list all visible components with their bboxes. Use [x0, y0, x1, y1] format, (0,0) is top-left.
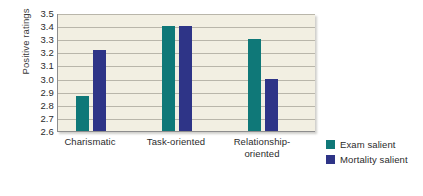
y-axis-tick-label: 2.7: [40, 114, 54, 124]
legend-swatch-icon: [326, 155, 335, 164]
chart-legend: Exam salientMortality salient: [326, 138, 408, 168]
bar-group: [58, 14, 144, 131]
legend-swatch-icon: [326, 140, 335, 149]
bar-chart: Positive ratings 3.53.43.33.23.13.02.92.…: [0, 0, 423, 196]
bar: [93, 50, 106, 131]
x-axis-category-label-line: Task-oriented: [147, 136, 205, 147]
x-axis-category-label: Charismatic: [64, 136, 115, 148]
legend-item: Exam salient: [326, 138, 408, 151]
bar-group: [144, 14, 230, 131]
y-axis-tick-label: 3.4: [40, 22, 54, 32]
x-axis-category-label-line: oriented: [234, 148, 291, 160]
bar: [76, 96, 89, 131]
legend-item: Mortality salient: [326, 153, 408, 166]
x-axis-category-label-line: Relationship-: [234, 136, 291, 147]
bar-group: [230, 14, 315, 131]
y-axis-tick-label: 3.3: [40, 35, 54, 45]
y-axis-tick-label: 2.8: [40, 101, 54, 111]
y-axis-tick-label: 3.2: [40, 49, 54, 59]
bar: [248, 39, 261, 131]
x-axis-category-label: Relationship-oriented: [234, 136, 291, 159]
bar-series-container: [58, 14, 315, 131]
x-axis-category-labels: CharismaticTask-orientedRelationship-ori…: [57, 136, 315, 176]
x-axis-category-label: Task-oriented: [147, 136, 205, 148]
y-axis-tick-labels: 3.53.43.33.23.13.02.92.82.72.6: [22, 14, 54, 132]
y-axis-tick-label: 3.1: [40, 62, 54, 72]
bar: [179, 26, 192, 131]
legend-label: Exam salient: [340, 140, 396, 150]
x-axis-category-label-line: Charismatic: [64, 136, 115, 147]
y-axis-tick-label: 3.0: [40, 75, 54, 85]
legend-label: Mortality salient: [340, 155, 408, 165]
plot-area: [57, 14, 315, 132]
bar: [265, 79, 278, 131]
bar: [162, 26, 175, 131]
y-axis-tick-label: 3.5: [40, 9, 54, 19]
y-axis-tick-label: 2.6: [40, 127, 54, 137]
y-axis-tick-label: 2.9: [40, 88, 54, 98]
